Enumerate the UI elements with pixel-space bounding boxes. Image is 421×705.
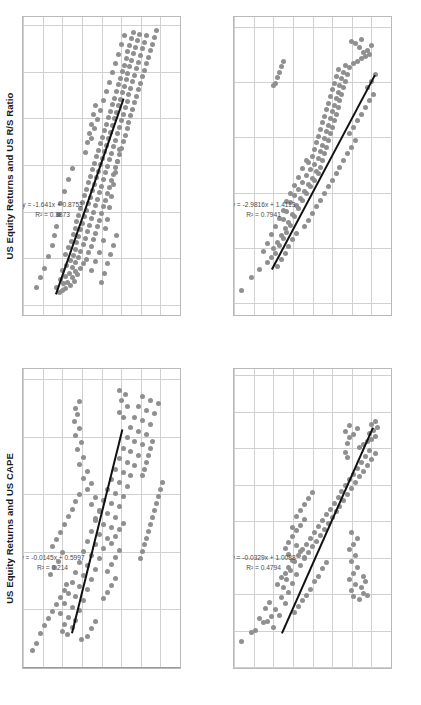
scatter-point xyxy=(351,542,356,547)
scatter-point xyxy=(324,107,329,112)
scatter-point xyxy=(318,149,323,154)
scatter-point xyxy=(128,473,133,478)
x-zero-axis xyxy=(23,667,180,668)
scatter-point xyxy=(302,517,307,522)
scatter-point xyxy=(113,491,118,496)
scatter-point xyxy=(93,495,98,500)
scatter-point xyxy=(121,112,126,117)
scatter-point xyxy=(125,99,130,104)
scatter-point xyxy=(122,33,127,38)
scatter-point xyxy=(322,136,327,141)
scatter-point xyxy=(148,422,153,427)
scatter-point xyxy=(361,574,366,579)
scatter-point xyxy=(109,541,114,546)
x-tick-label: 0.60 xyxy=(176,69,182,76)
scatter-point xyxy=(150,515,155,520)
gridline-y xyxy=(273,17,274,315)
scatter-point xyxy=(298,508,303,513)
scatter-point xyxy=(345,72,350,77)
scatter-point xyxy=(334,171,339,176)
scatter-point xyxy=(130,79,135,84)
scatter-point xyxy=(88,174,93,179)
scatter-point xyxy=(113,534,118,539)
chart-bottom-right: 101520253035404550100.0%80.0%60.0%40.0%2… xyxy=(211,352,421,705)
scatter-point xyxy=(104,89,109,94)
scatter-point xyxy=(96,148,101,153)
scatter-point xyxy=(140,74,145,79)
scatter-point xyxy=(54,537,59,542)
scatter-point xyxy=(312,530,317,535)
scatter-point xyxy=(253,628,258,633)
trendline-equation-label: y = -2.9816x + 1.4113R² = 0.7941 xyxy=(233,201,303,220)
x-tick-label: 20 xyxy=(387,592,393,599)
scatter-point xyxy=(146,55,151,60)
scatter-point xyxy=(73,247,78,252)
scatter-point xyxy=(97,218,102,223)
scatter-point xyxy=(349,530,354,535)
scatter-point xyxy=(75,413,80,418)
scatter-point xyxy=(146,529,151,534)
scatter-point xyxy=(89,244,94,249)
scatter-point xyxy=(302,555,307,560)
scatter-point xyxy=(132,100,137,105)
scatter-point xyxy=(345,455,350,460)
scatter-point xyxy=(101,98,106,103)
scatter-point xyxy=(132,415,137,420)
scatter-point xyxy=(128,449,133,454)
scatter-point xyxy=(150,42,155,47)
scatter-point xyxy=(138,556,143,561)
chart-title-bottom-left: US Equity Returns and US CAPE xyxy=(4,352,15,705)
plot-area-top-left: 0.100.200.300.400.500.600.70100.0%80.0%6… xyxy=(22,16,181,316)
scatter-point xyxy=(101,177,106,182)
scatter-point xyxy=(328,94,333,99)
scatter-point xyxy=(281,59,286,64)
scatter-point xyxy=(132,463,137,468)
equation-text: y = -1.641x + 0.8753 xyxy=(22,201,92,211)
scatter-point xyxy=(73,269,78,274)
scatter-point xyxy=(142,68,147,73)
scatter-point xyxy=(128,86,133,91)
scatter-point xyxy=(81,476,86,481)
scatter-point xyxy=(154,501,159,506)
scatter-point xyxy=(109,501,114,506)
scatter-point xyxy=(93,567,98,572)
scatter-point xyxy=(65,280,70,285)
r-squared-text: R² = 0.4794 xyxy=(233,563,303,573)
scatter-point xyxy=(70,275,75,280)
scatter-point xyxy=(136,60,141,65)
scatter-point xyxy=(85,587,90,592)
scatter-point xyxy=(99,280,104,285)
scatter-point xyxy=(140,46,145,51)
trendline xyxy=(71,429,123,634)
scatter-point xyxy=(322,114,327,119)
scatter-point xyxy=(105,590,110,595)
scatter-point xyxy=(118,76,123,81)
trendline xyxy=(271,75,376,270)
scatter-point xyxy=(48,572,53,577)
scatter-point xyxy=(281,585,286,590)
scatter-point xyxy=(115,131,120,136)
scatter-point xyxy=(104,122,109,127)
scatter-point xyxy=(359,112,364,117)
scatter-point xyxy=(121,521,126,526)
scatter-point xyxy=(316,574,321,579)
scatter-point xyxy=(117,125,122,130)
scatter-point xyxy=(263,606,268,611)
x-tick-label: 0.30 xyxy=(176,209,182,216)
x-tick-label: 50 xyxy=(387,373,393,380)
r-squared-text: R² = 0.3873 xyxy=(22,210,92,220)
scatter-point xyxy=(239,288,244,293)
scatter-point xyxy=(363,105,368,110)
scatter-point xyxy=(144,536,149,541)
scatter-point xyxy=(140,418,145,423)
scatter-point xyxy=(349,588,354,593)
scatter-point xyxy=(292,610,297,615)
x-tick-label: 10 xyxy=(176,607,182,614)
scatter-point xyxy=(125,460,130,465)
gridline-y xyxy=(160,17,161,315)
scatter-point xyxy=(82,193,87,198)
scatter-point xyxy=(302,502,307,507)
scatter-point xyxy=(275,75,280,80)
scatter-point xyxy=(109,583,114,588)
scatter-point xyxy=(120,69,125,74)
